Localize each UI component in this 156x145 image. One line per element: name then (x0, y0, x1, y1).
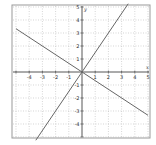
x-axis-label: x (146, 64, 149, 70)
x-tick-label: 3 (120, 74, 123, 80)
y-tick-label: 5 (76, 4, 79, 10)
y-tick-label: 4 (76, 17, 79, 23)
x-tick-label: 2 (107, 74, 110, 80)
y-tick-label: -2 (75, 95, 80, 101)
y-tick-label: -4 (75, 121, 80, 127)
y-axis-label: y (83, 6, 87, 13)
x-tick-label: 5 (146, 74, 149, 80)
x-tick-label: -1 (66, 74, 71, 80)
x-tick-label: 1 (94, 74, 97, 80)
y-tick-label: 3 (76, 30, 79, 36)
x-tick-label: 4 (133, 74, 136, 80)
coordinate-plane-chart: -4-3-2-112345-4-3-2-112345 x y (0, 0, 156, 145)
y-tick-label: 1 (76, 56, 79, 62)
x-tick-label: -4 (27, 74, 32, 80)
x-tick-label: -2 (53, 74, 58, 80)
y-tick-label: 2 (76, 43, 79, 49)
x-tick-label: -3 (40, 74, 45, 80)
y-tick-label: -3 (75, 108, 80, 114)
